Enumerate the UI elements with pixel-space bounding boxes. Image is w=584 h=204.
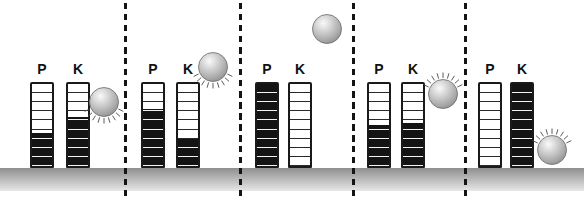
ball-icon — [530, 128, 574, 172]
ball — [530, 128, 574, 172]
bar-label-p: P — [478, 59, 502, 79]
bar-label-k: K — [510, 59, 534, 79]
stage-panel-5: PK — [0, 0, 584, 204]
bar-fill-k — [512, 84, 532, 166]
energy-bar-p — [478, 82, 502, 168]
energy-bar-diagram: PKPKPKPKPK — [0, 0, 584, 204]
